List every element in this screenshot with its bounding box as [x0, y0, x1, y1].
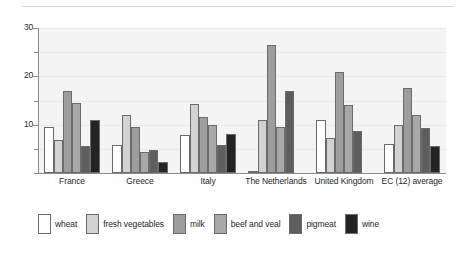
y-tick-30	[33, 28, 38, 29]
bar-france-fresh-vegetables	[54, 140, 63, 173]
legend-label: wheat	[55, 219, 77, 229]
legend-swatch-icon	[214, 214, 227, 234]
bar-greece-fresh-vegetables	[122, 115, 131, 173]
header-divider	[22, 6, 454, 7]
gridline-15	[38, 101, 446, 102]
bar-united-kingdom-beef-and-veal	[344, 105, 353, 173]
gridline-30	[38, 28, 446, 29]
y-tick-0	[34, 173, 38, 174]
y-axis-label-30: 30	[5, 22, 33, 32]
legend-label: fresh vegetables	[103, 219, 164, 229]
category-label-united-kingdom: United Kingdom	[310, 176, 378, 186]
legend-item-wheat[interactable]: wheat	[38, 214, 77, 234]
gridline-25	[38, 52, 446, 53]
legend-swatch-icon	[173, 214, 186, 234]
bar-ec-12-average-wine	[430, 146, 439, 173]
bar-greece-beef-and-veal	[140, 152, 149, 173]
bar-italy-beef-and-veal	[208, 125, 217, 173]
bar-united-kingdom-fresh-vegetables	[326, 138, 335, 173]
bar-the-netherlands-milk	[267, 45, 276, 173]
bar-ec-12-average-wheat	[384, 144, 393, 173]
legend-label: wine	[362, 219, 379, 229]
bar-france-wheat	[44, 127, 53, 173]
legend-item-beef-and-veal[interactable]: beef and veal	[214, 214, 281, 234]
bar-united-kingdom-wheat	[316, 120, 325, 173]
bar-italy-pigmeat	[217, 145, 226, 173]
bar-ec-12-average-milk	[403, 88, 412, 173]
bar-the-netherlands-wheat	[248, 171, 257, 173]
gridline-20	[38, 76, 446, 77]
y-axis-label-10: 10	[5, 119, 33, 129]
bar-chart-figure: 102030 FranceGreeceItalyThe NetherlandsU…	[0, 0, 462, 258]
category-label-france: France	[38, 176, 106, 186]
bar-greece-wine	[158, 162, 167, 173]
bar-italy-wheat	[180, 135, 189, 173]
y-axis-line	[38, 28, 39, 174]
category-label-ec-12-average: EC (12) average	[378, 176, 446, 186]
bar-france-wine	[90, 120, 99, 173]
y-axis-labels: 102030	[0, 0, 33, 258]
bar-greece-pigmeat	[149, 150, 158, 173]
bar-ec-12-average-pigmeat	[421, 128, 430, 173]
category-label-italy: Italy	[174, 176, 242, 186]
bar-france-milk	[63, 91, 72, 173]
legend-item-milk[interactable]: milk	[173, 214, 205, 234]
bar-greece-milk	[131, 127, 140, 173]
bar-ec-12-average-fresh-vegetables	[394, 125, 403, 173]
y-tick-10	[33, 125, 38, 126]
legend-label: pigmeat	[306, 219, 336, 229]
bar-the-netherlands-beef-and-veal	[276, 127, 285, 173]
legend-label: beef and veal	[231, 219, 281, 229]
bar-the-netherlands-fresh-vegetables	[258, 120, 267, 173]
bar-greece-wheat	[112, 145, 121, 173]
legend-item-wine[interactable]: wine	[345, 214, 379, 234]
x-axis-line	[38, 173, 446, 174]
legend-swatch-icon	[345, 214, 358, 234]
legend-item-fresh-vegetables[interactable]: fresh vegetables	[86, 214, 164, 234]
bar-united-kingdom-milk	[335, 72, 344, 174]
bar-france-pigmeat	[81, 146, 90, 173]
bar-united-kingdom-pigmeat	[353, 131, 362, 173]
y-tick-5	[34, 149, 38, 150]
y-tick-20	[33, 76, 38, 77]
legend-item-pigmeat[interactable]: pigmeat	[289, 214, 336, 234]
chart-legend: wheatfresh vegetablesmilkbeef and vealpi…	[38, 212, 388, 236]
y-axis-label-20: 20	[5, 70, 33, 80]
bar-italy-fresh-vegetables	[190, 104, 199, 173]
legend-swatch-icon	[86, 214, 99, 234]
legend-swatch-icon	[289, 214, 302, 234]
bar-ec-12-average-beef-and-veal	[412, 115, 421, 173]
bar-france-beef-and-veal	[72, 103, 81, 173]
bar-italy-wine	[226, 134, 235, 173]
category-label-greece: Greece	[106, 176, 174, 186]
bar-italy-milk	[199, 117, 208, 173]
y-tick-15	[34, 101, 38, 102]
bar-the-netherlands-pigmeat	[285, 91, 294, 173]
legend-swatch-icon	[38, 214, 51, 234]
y-tick-25	[34, 52, 38, 53]
category-label-the-netherlands: The Netherlands	[242, 176, 310, 186]
legend-label: milk	[190, 219, 205, 229]
